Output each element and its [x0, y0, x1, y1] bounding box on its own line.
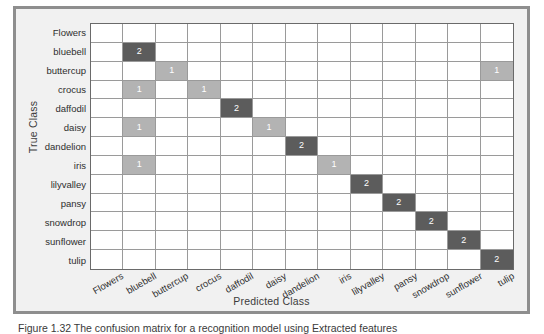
matrix-cell: [253, 156, 285, 175]
matrix-cell: [481, 231, 513, 250]
matrix-cell: [123, 175, 155, 194]
matrix-cell: [383, 212, 415, 231]
matrix-cell: [123, 250, 155, 269]
x-tick-label: crocus: [194, 271, 223, 293]
matrix-cell: [91, 137, 123, 156]
matrix-cell: [91, 194, 123, 213]
matrix-cell: [351, 81, 383, 100]
matrix-cell: 1: [318, 156, 350, 175]
y-tick-label: daisy: [28, 118, 90, 137]
x-tick-label: iris: [338, 271, 353, 285]
matrix-cell: 2: [481, 250, 513, 269]
matrix-cell: [416, 62, 448, 81]
matrix-cell: [156, 43, 188, 62]
x-axis-title: Predicted Class: [16, 295, 527, 307]
matrix-cell: [123, 212, 155, 231]
matrix-cell: [448, 81, 480, 100]
matrix-cell: [318, 231, 350, 250]
matrix-cell: [188, 137, 220, 156]
matrix-cell: [253, 24, 285, 43]
matrix-cell: [318, 212, 350, 231]
matrix-cell: [481, 175, 513, 194]
matrix-cell: [448, 118, 480, 137]
y-tick-label: snowdrop: [28, 213, 90, 232]
matrix-cell: [286, 250, 318, 269]
matrix-cell: [416, 137, 448, 156]
matrix-cell: [188, 212, 220, 231]
matrix-cell: [91, 175, 123, 194]
matrix-cell: [383, 99, 415, 118]
matrix-cell: [253, 250, 285, 269]
matrix-cell: [448, 156, 480, 175]
matrix-cell: [351, 212, 383, 231]
matrix-cell: [448, 99, 480, 118]
matrix-cell: [156, 212, 188, 231]
matrix-cell: [188, 99, 220, 118]
matrix-cell: [416, 99, 448, 118]
matrix-cell: [481, 118, 513, 137]
y-tick-label: sunflower: [28, 232, 90, 251]
matrix-cell: [156, 231, 188, 250]
matrix-cell: [481, 212, 513, 231]
matrix-cell: [481, 137, 513, 156]
matrix-cell: [123, 137, 155, 156]
matrix-cell: [221, 118, 253, 137]
matrix-cell: [481, 194, 513, 213]
matrix-cell: [416, 156, 448, 175]
y-axis-tick-labels: Flowersbluebellbuttercupcrocusdaffodilda…: [28, 23, 90, 270]
matrix-cell: [286, 99, 318, 118]
matrix-cell: [221, 81, 253, 100]
matrix-cell: [448, 250, 480, 269]
y-tick-label: tulip: [28, 251, 90, 270]
y-tick-label: crocus: [28, 80, 90, 99]
matrix-cell: [383, 250, 415, 269]
matrix-cell: [318, 99, 350, 118]
matrix-cell: [383, 137, 415, 156]
confusion-matrix-plot: True Class Flowersbluebellbuttercupcrocu…: [16, 9, 527, 311]
matrix-cell: [286, 24, 318, 43]
matrix-cell: [156, 99, 188, 118]
matrix-cell: [351, 156, 383, 175]
matrix-cell: [448, 43, 480, 62]
matrix-cell: [123, 231, 155, 250]
matrix-cell: [156, 156, 188, 175]
matrix-cell: 2: [416, 212, 448, 231]
matrix-cell: [286, 62, 318, 81]
matrix-cell: [351, 250, 383, 269]
matrix-cell: [188, 156, 220, 175]
matrix-cell: [318, 194, 350, 213]
matrix-cell: [318, 81, 350, 100]
y-tick-label: Flowers: [28, 23, 90, 42]
matrix-cell: [351, 231, 383, 250]
matrix-cell: [156, 118, 188, 137]
y-tick-label: iris: [28, 156, 90, 175]
matrix-cell: [286, 81, 318, 100]
matrix-cell: [351, 43, 383, 62]
matrix-cell: [351, 137, 383, 156]
matrix-cell: [156, 24, 188, 43]
matrix-cell: [156, 137, 188, 156]
matrix-cell: [123, 99, 155, 118]
matrix-cell: [481, 156, 513, 175]
matrix-cell: [481, 24, 513, 43]
matrix-cell: [416, 118, 448, 137]
matrix-cell: [91, 212, 123, 231]
matrix-cell: [188, 231, 220, 250]
matrix-cell: [416, 250, 448, 269]
matrix-cell: [188, 62, 220, 81]
y-tick-label: bluebell: [28, 42, 90, 61]
matrix-cell: [91, 118, 123, 137]
matrix-cell: [91, 43, 123, 62]
matrix-cell: [383, 118, 415, 137]
matrix-cell: 2: [221, 99, 253, 118]
matrix-cell: [481, 81, 513, 100]
matrix-cell: [481, 43, 513, 62]
matrix-cell: 2: [286, 137, 318, 156]
matrix-cell: [448, 194, 480, 213]
matrix-cell: [383, 81, 415, 100]
matrix-cell: [91, 81, 123, 100]
matrix-cell: [156, 250, 188, 269]
matrix-cell: [156, 175, 188, 194]
matrix-cell: [286, 194, 318, 213]
x-tick-label: tulip: [496, 271, 516, 288]
